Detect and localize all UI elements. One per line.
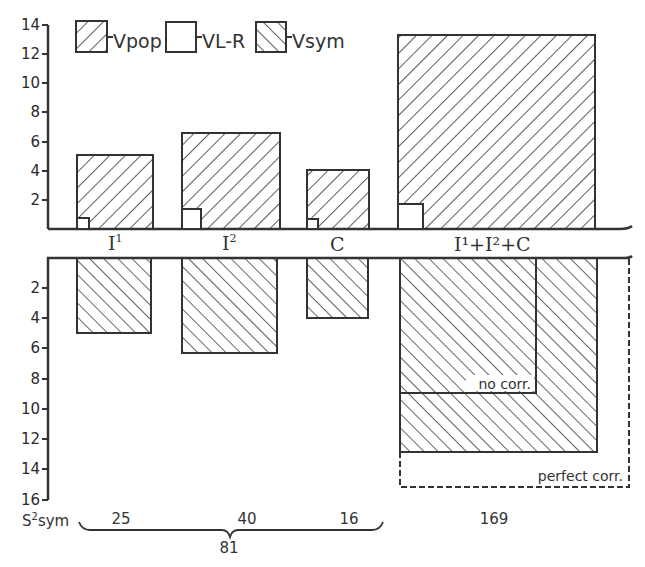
lower-tick-label: 14 bbox=[21, 460, 40, 478]
chart: Vpop VL-R Vsym 2 4 6 8 bbox=[0, 0, 645, 567]
vsym-bar-i1 bbox=[77, 258, 151, 333]
s2sym-value-i2: 40 bbox=[237, 510, 256, 528]
vsym-bar-i2 bbox=[182, 258, 277, 353]
vlr-swatch-icon bbox=[166, 22, 196, 52]
vlr-bar-c bbox=[307, 219, 318, 229]
legend-label-vsym: Vsym bbox=[292, 30, 345, 52]
vpop-bar-sum bbox=[398, 35, 595, 229]
legend-item-vpop: Vpop bbox=[76, 21, 162, 52]
legend: Vpop VL-R Vsym bbox=[76, 21, 345, 52]
category-label-c: C bbox=[330, 233, 345, 255]
perfect-corr-label: perfect corr. bbox=[538, 468, 623, 484]
category-label-i2: I2 bbox=[222, 232, 237, 254]
lower-panel: 2 4 6 8 10 12 14 16 no corr. perfect cor… bbox=[21, 256, 632, 509]
vsym-bar-sum bbox=[400, 258, 597, 452]
vsym-bar-c bbox=[307, 258, 368, 318]
lower-ticks: 2 4 6 8 10 12 14 16 bbox=[21, 279, 48, 509]
lower-tick-label: 6 bbox=[30, 339, 40, 357]
vlr-bar-i2 bbox=[182, 209, 201, 229]
legend-label-vpop: Vpop bbox=[113, 30, 162, 52]
upper-tick-label: 4 bbox=[30, 162, 40, 180]
category-labels: I1 I2 C I¹+I²+C bbox=[108, 232, 531, 255]
upper-tick-label: 6 bbox=[30, 133, 40, 151]
upper-tick-label: 14 bbox=[21, 16, 40, 34]
lower-tick-label: 12 bbox=[21, 430, 40, 448]
upper-tick-label: 2 bbox=[30, 191, 40, 209]
no-corr-label: no corr. bbox=[478, 376, 531, 392]
s2sym-value-sum: 169 bbox=[480, 510, 509, 528]
s2sym-value-c: 16 bbox=[339, 510, 358, 528]
vlr-bar-sum bbox=[398, 204, 423, 229]
lower-tick-label: 10 bbox=[21, 400, 40, 418]
lower-tick-label: 2 bbox=[30, 279, 40, 297]
vlr-bar-i1 bbox=[77, 218, 89, 229]
s2sym-row: S2sym 25 40 16 169 81 bbox=[22, 510, 508, 557]
legend-item-vlr: VL-R bbox=[166, 22, 245, 52]
s2sym-total: 81 bbox=[219, 539, 238, 557]
lower-tick-label: 4 bbox=[30, 309, 40, 327]
lower-tick-label: 8 bbox=[30, 370, 40, 388]
category-label-i1: I1 bbox=[108, 232, 123, 254]
vsym-swatch-icon bbox=[256, 22, 286, 52]
s2sym-value-i1: 25 bbox=[111, 510, 130, 528]
legend-label-vlr: VL-R bbox=[202, 30, 245, 52]
upper-ticks: 2 4 6 8 10 12 14 bbox=[21, 16, 48, 209]
upper-tick-label: 10 bbox=[21, 74, 40, 92]
lower-tick-label: 16 bbox=[21, 491, 40, 509]
vpop-swatch-icon bbox=[76, 21, 107, 52]
upper-tick-label: 8 bbox=[30, 103, 40, 121]
category-label-sum: I¹+I²+C bbox=[454, 233, 531, 255]
legend-item-vsym: Vsym bbox=[256, 22, 345, 52]
upper-tick-label: 12 bbox=[21, 45, 40, 63]
s2sym-label: S2sym bbox=[22, 511, 69, 530]
